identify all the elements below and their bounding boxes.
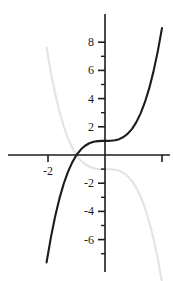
- y-tick-label: 8: [88, 35, 94, 49]
- plot-figure: 8642-2-4-6-2: [0, 0, 173, 281]
- plot-canvas: 8642-2-4-6-2: [0, 0, 173, 281]
- y-tick-label: -4: [84, 204, 94, 218]
- y-tick-label: -6: [84, 233, 94, 247]
- y-tick-label: -2: [84, 176, 94, 190]
- x-tick-label: -2: [43, 164, 53, 178]
- y-tick-label: 6: [88, 63, 94, 77]
- y-tick-label: 2: [88, 120, 94, 134]
- y-tick-label: 4: [88, 92, 94, 106]
